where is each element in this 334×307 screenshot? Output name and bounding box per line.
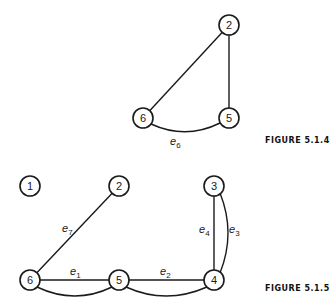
node-6: 6 [20,270,40,290]
figure-5-1-5: e7 e1 e2 e4 e3 1 2 3 6 5 4 [20,176,240,296]
node-2: 2 [219,15,239,35]
svg-text:4: 4 [211,274,217,286]
node-5: 5 [109,270,129,290]
edge-e6-6-5 [151,123,220,132]
graph-figures-canvas: e6 2 5 6 e7 e1 e2 e4 e3 1 2 3 6 5 4 [0,0,334,307]
edge-e3-3-4 [220,193,228,273]
node-6: 6 [133,108,153,128]
figure-5-1-4: e6 2 5 6 [133,15,239,150]
svg-text:5: 5 [116,274,122,286]
edge-label-e4: e4 [199,223,210,238]
svg-text:6: 6 [27,274,33,286]
svg-text:2: 2 [116,180,122,192]
svg-text:3: 3 [211,180,217,192]
node-4: 4 [204,270,224,290]
figure-caption-5-1-4: FIGURE 5.1.4 [265,136,330,145]
node-2: 2 [109,176,129,196]
figure-caption-5-1-5: FIGURE 5.1.5 [265,284,330,293]
node-5: 5 [219,108,239,128]
edge-label-e2: e2 [160,265,171,280]
edge-label-e1: e1 [70,265,81,280]
edge-label-e3: e3 [229,223,240,238]
edge-5-4-curved [126,287,207,296]
node-3: 3 [204,176,224,196]
edge-6-2 [143,25,229,118]
svg-text:6: 6 [140,112,146,124]
svg-text:2: 2 [226,19,232,31]
edge-6-5-curved [37,287,112,296]
edge-label-e7: e7 [62,222,73,237]
edge-label-e6: e6 [170,135,181,150]
svg-text:5: 5 [226,112,232,124]
svg-text:1: 1 [27,180,33,192]
node-1: 1 [20,176,40,196]
